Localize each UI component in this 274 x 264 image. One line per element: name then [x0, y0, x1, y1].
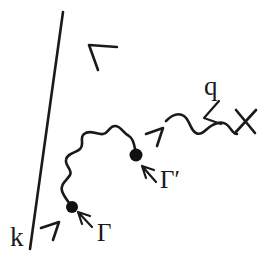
feynman-diagram-canvas: k q Γ Γ′ — [0, 0, 274, 264]
fermion-outgoing-arrowhead — [89, 45, 117, 70]
external-photon-wavy-line — [166, 114, 237, 134]
label-incoming-momentum-k: k — [10, 222, 24, 252]
feynman-diagram-svg: k q Γ Γ′ — [0, 0, 274, 264]
internal-photon-wavy-line — [62, 126, 136, 207]
fermion-propagator-line — [30, 12, 63, 249]
photon-momentum-arrow — [204, 101, 221, 124]
label-dressed-vertex-gamma-prime: Γ′ — [160, 166, 180, 193]
external-source-cross — [235, 110, 256, 133]
fermion-incoming-arrowhead — [41, 222, 59, 240]
label-photon-momentum-q: q — [204, 71, 218, 101]
vertex-dot-gamma — [66, 201, 78, 213]
fermion-middle-arrowhead — [146, 128, 163, 146]
gamma-pointer-arrow — [78, 212, 92, 227]
gamma-prime-pointer-arrow — [142, 166, 156, 182]
label-bare-vertex-gamma: Γ — [97, 219, 111, 246]
vertex-dot-gamma-prime — [130, 149, 143, 162]
